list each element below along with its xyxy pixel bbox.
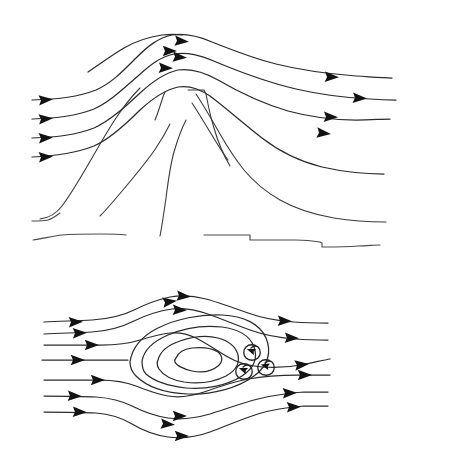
- figure-root: Airflow over an isolated mountain and ar…: [0, 0, 452, 461]
- flow-diagram-svg: [0, 0, 452, 461]
- figure-background: [0, 0, 452, 461]
